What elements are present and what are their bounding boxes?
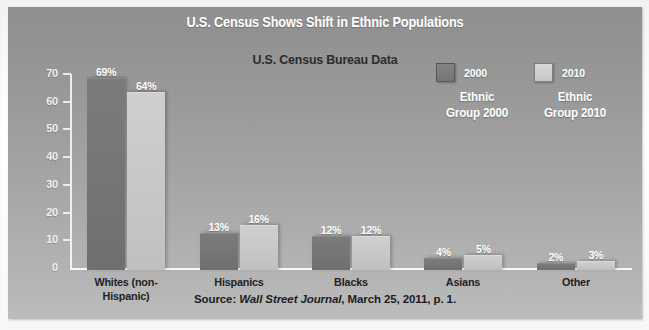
bar[interactable] [240, 225, 278, 270]
bar-group: 12%12% [291, 76, 411, 270]
page-title: U.S. Census Shows Shift in Ethnic Popula… [46, 14, 604, 30]
source-prefix: Source: [194, 293, 239, 305]
bar[interactable] [424, 258, 462, 270]
x-label-line: Whites (non- [95, 276, 158, 288]
chart-legend: 2000 2010 Ethnic Group 2000 Ethnic Group… [428, 63, 624, 121]
bar-group: 69%64% [66, 76, 186, 270]
y-axis-tick-label: 40 [24, 151, 58, 162]
legend-label-2010-line1: Ethnic [558, 90, 592, 104]
x-axis-category-label: Hispanics [182, 275, 295, 289]
legend-swatch-2010-icon [534, 63, 553, 82]
source-note: Source: Wall Street Journal, March 25, 2… [8, 293, 642, 305]
bar-value-label: 3% [571, 249, 621, 261]
bar-wrapper: 16% [240, 76, 278, 270]
y-axis-tick-label: 20 [24, 207, 58, 218]
bar-value-label: 5% [458, 243, 508, 255]
legend-entry-2010: 2010 [526, 63, 624, 82]
bar[interactable] [537, 263, 575, 270]
chart-page: U.S. Census Shows Shift in Ethnic Popula… [0, 0, 649, 330]
source-journal: Wall Street Journal [239, 293, 341, 305]
x-axis-category-label: Asians [407, 275, 520, 289]
y-axis-tick-label: 60 [24, 96, 58, 107]
legend-entry-2000: 2000 [428, 63, 526, 82]
bar[interactable] [352, 236, 390, 270]
x-axis-category-label: Blacks [295, 275, 408, 289]
legend-label-2010-line2: Group 2010 [544, 106, 606, 120]
bar-wrapper: 12% [352, 76, 390, 270]
y-axis-tick-label: 70 [24, 68, 58, 79]
bar-value-label: 16% [234, 213, 284, 225]
bar[interactable] [312, 236, 350, 270]
y-axis-tick-label: 50 [24, 123, 58, 134]
legend-label-2000-line1: Ethnic [460, 90, 494, 104]
bar-wrapper: 12% [312, 76, 350, 270]
y-axis-tick-label: 10 [24, 234, 58, 245]
x-label-line: Asians [446, 276, 480, 288]
y-axis-tick [63, 73, 71, 75]
x-label-line: Other [562, 276, 590, 288]
x-label-line: Hispanics [214, 276, 263, 288]
bar[interactable] [87, 78, 125, 270]
x-axis-category-label: Other [519, 275, 632, 289]
bar[interactable] [577, 261, 615, 270]
bar-value-label: 12% [346, 224, 396, 236]
legend-label-2000: Ethnic Group 2000 [431, 89, 522, 121]
bar-value-label: 69% [81, 66, 131, 78]
source-suffix: , March 25, 2011, p. 1. [341, 293, 456, 305]
legend-label-2000-line2: Group 2000 [446, 106, 508, 120]
legend-year-2010: 2010 [562, 67, 585, 79]
bar[interactable] [200, 233, 238, 270]
bar-wrapper: 69% [87, 76, 125, 270]
legend-swatch-2000-icon [436, 63, 455, 82]
bar[interactable] [127, 92, 165, 270]
x-label-line: Blacks [334, 276, 368, 288]
legend-label-2010: Ethnic Group 2010 [529, 89, 620, 121]
legend-names-row: Ethnic Group 2000 Ethnic Group 2010 [428, 89, 624, 121]
bar[interactable] [464, 255, 502, 270]
chart-panel: U.S. Census Shows Shift in Ethnic Popula… [8, 7, 642, 319]
bar-wrapper: 64% [127, 76, 165, 270]
legend-swatch-row: 2000 2010 [428, 63, 624, 82]
bar-wrapper: 13% [200, 76, 238, 270]
y-axis-tick-label: 0 [24, 262, 58, 273]
y-axis-tick-label: 30 [24, 179, 58, 190]
bar-group: 13%16% [179, 76, 299, 270]
legend-year-2000: 2000 [464, 67, 487, 79]
bar-value-label: 64% [121, 80, 171, 92]
